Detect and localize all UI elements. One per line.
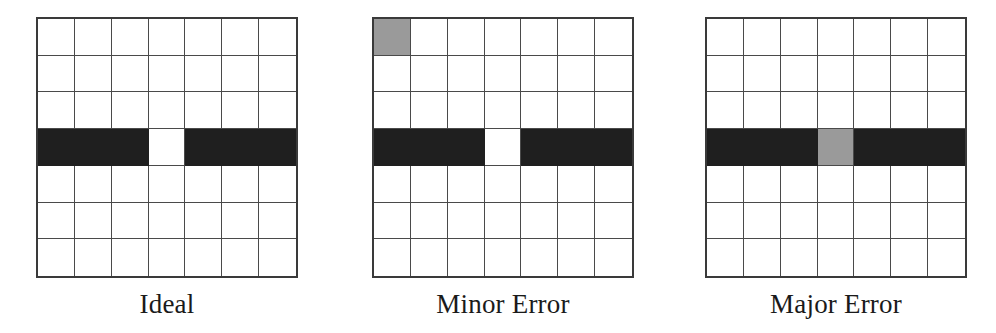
grid-cell-black xyxy=(707,129,744,166)
grid-cell-white xyxy=(818,92,855,129)
grid-cell-white xyxy=(928,56,965,93)
grid-cell-white xyxy=(185,203,222,240)
grid-cell-white xyxy=(558,19,595,56)
grid-cell-white xyxy=(222,92,259,129)
grid-cell-white xyxy=(707,56,744,93)
grid-cell-white xyxy=(854,56,891,93)
grid-cell-white xyxy=(891,203,928,240)
panel-ideal: Ideal xyxy=(36,17,298,278)
grid-cell-white xyxy=(521,19,558,56)
grid-cell-black xyxy=(781,129,818,166)
grid-cell-white xyxy=(818,203,855,240)
grid-cell-white xyxy=(595,239,632,276)
grid-cell-white xyxy=(259,239,296,276)
grid-cell-black xyxy=(744,129,781,166)
grid-cell-gray xyxy=(374,19,411,56)
grid-cell-white xyxy=(707,92,744,129)
grid-cell-white xyxy=(448,19,485,56)
grid-cell-white xyxy=(854,166,891,203)
grid-cell-white xyxy=(928,19,965,56)
grid-cell-white xyxy=(707,203,744,240)
grid-cell-white xyxy=(891,166,928,203)
grid-cell-white xyxy=(149,56,186,93)
grid-cell-white xyxy=(595,19,632,56)
grid-cell-white xyxy=(75,166,112,203)
grid-cell-white xyxy=(744,56,781,93)
grid-cell-black xyxy=(411,129,448,166)
grid-cell-black xyxy=(75,129,112,166)
grid-cell-black xyxy=(185,129,222,166)
grid-cell-white xyxy=(558,56,595,93)
grid-cell-white xyxy=(112,203,149,240)
grid-cell-white xyxy=(781,203,818,240)
grid-cell-white xyxy=(558,239,595,276)
grid-cell-white xyxy=(411,239,448,276)
grid-cell-white xyxy=(185,56,222,93)
grid-cell-white xyxy=(411,19,448,56)
grid-cell-black xyxy=(112,129,149,166)
grid-cell-white xyxy=(149,203,186,240)
grid-cell-white xyxy=(112,92,149,129)
grid-cell-white xyxy=(485,166,522,203)
grid-cell-white xyxy=(222,239,259,276)
grid-cell-white xyxy=(707,239,744,276)
grid-cell-white xyxy=(374,203,411,240)
grid-cell-white xyxy=(521,166,558,203)
grid-cell-white xyxy=(558,203,595,240)
grid-cell-white xyxy=(818,56,855,93)
panel-major-error: Major Error xyxy=(705,17,967,278)
grid-cell-white xyxy=(38,203,75,240)
grid-cell-white xyxy=(744,203,781,240)
grid-cell-white xyxy=(595,166,632,203)
grid-cell-white xyxy=(558,166,595,203)
grid-cell-white xyxy=(38,56,75,93)
label-ideal: Ideal xyxy=(36,289,298,320)
grid-cell-white xyxy=(75,19,112,56)
grid-cell-white xyxy=(374,92,411,129)
panel-minor-error: Minor Error xyxy=(372,17,634,278)
grid-cell-white xyxy=(781,92,818,129)
grid-cell-white xyxy=(558,92,595,129)
grid-minor-error xyxy=(372,17,634,278)
grid-cell-white xyxy=(374,56,411,93)
grid-cell-white xyxy=(781,166,818,203)
grid-cell-gray xyxy=(818,129,855,166)
grid-cell-black xyxy=(222,129,259,166)
grid-ideal xyxy=(36,17,298,278)
label-minor-error: Minor Error xyxy=(372,289,634,320)
grid-cell-white xyxy=(112,166,149,203)
grid-cell-white xyxy=(891,19,928,56)
grid-cell-white xyxy=(781,56,818,93)
grid-major-error xyxy=(705,17,967,278)
grid-cell-white xyxy=(259,56,296,93)
grid-cell-white xyxy=(411,92,448,129)
grid-cell-white xyxy=(854,239,891,276)
grid-cell-white xyxy=(521,203,558,240)
grid-cell-white xyxy=(259,166,296,203)
grid-cell-white xyxy=(448,56,485,93)
grid-cell-white xyxy=(485,129,522,166)
grid-cell-white xyxy=(448,239,485,276)
grid-cell-white xyxy=(149,19,186,56)
grid-cell-black xyxy=(448,129,485,166)
grid-cell-white xyxy=(521,239,558,276)
grid-cell-white xyxy=(928,203,965,240)
grid-cell-white xyxy=(854,203,891,240)
grid-cell-white xyxy=(707,19,744,56)
grid-cell-white xyxy=(928,166,965,203)
grid-cell-black xyxy=(595,129,632,166)
grid-cell-white xyxy=(891,56,928,93)
grid-cell-white xyxy=(75,92,112,129)
grid-cell-white xyxy=(259,203,296,240)
grid-cell-white xyxy=(521,56,558,93)
grid-cell-white xyxy=(38,166,75,203)
grid-cell-white xyxy=(185,166,222,203)
grid-cell-white xyxy=(222,166,259,203)
label-major-error: Major Error xyxy=(705,289,967,320)
grid-cell-white xyxy=(411,166,448,203)
grid-cell-white xyxy=(744,19,781,56)
grid-cell-white xyxy=(75,203,112,240)
grid-cell-white xyxy=(818,19,855,56)
grid-cell-white xyxy=(75,239,112,276)
grid-cell-white xyxy=(744,239,781,276)
